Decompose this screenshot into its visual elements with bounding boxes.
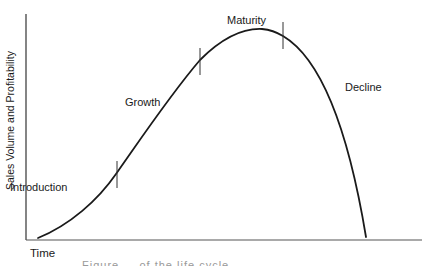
stage-label-introduction: Introduction bbox=[10, 181, 67, 193]
stage-label-decline: Decline bbox=[345, 81, 382, 93]
stage-label-growth: Growth bbox=[125, 96, 160, 108]
life-cycle-diagram bbox=[0, 0, 428, 266]
figure-caption-cutoff: Figure ... of the life cycle bbox=[82, 259, 229, 266]
stage-label-maturity: Maturity bbox=[227, 14, 266, 26]
x-axis-label: Time bbox=[30, 247, 55, 259]
life-cycle-curve bbox=[38, 29, 366, 238]
y-axis-label: Sales Volume and Profitability bbox=[4, 51, 16, 190]
